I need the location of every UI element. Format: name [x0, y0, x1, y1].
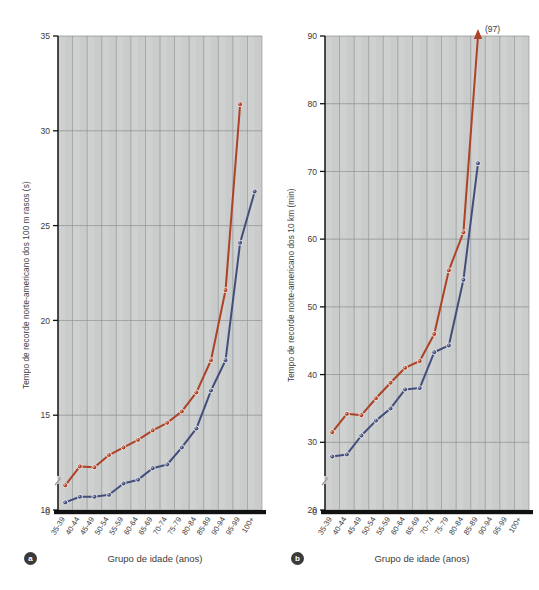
y-tick-label: 30: [40, 126, 50, 136]
x-axis-baseline: [54, 510, 266, 514]
chart-plot-b: 0203040506070809035-3940-4445-4950-5455-…: [301, 14, 533, 544]
x-tick-labels: 35-3940-4445-4950-5455-5960-6465-6970-74…: [49, 515, 257, 537]
y-tick-label: 20: [307, 505, 317, 515]
x-tick-label: 45-49: [345, 515, 363, 536]
y-tick-label: 90: [307, 31, 317, 41]
off-scale-arrow: [474, 29, 482, 39]
y-tick-label: 60: [307, 234, 317, 244]
x-tick-label: 95-99: [224, 515, 242, 536]
x-tick-label: 100+: [507, 515, 524, 535]
y-tick-label: 40: [307, 370, 317, 380]
x-axis-baseline: [321, 510, 533, 514]
x-axis-title-b: Grupo de idade (anos): [327, 553, 517, 564]
y-tick-label: 80: [307, 99, 317, 109]
y-tick-label: 35: [40, 31, 50, 41]
y-tick-label: 50: [307, 302, 317, 312]
y-tick-labels: 0101520253035: [40, 31, 58, 517]
x-tick-label: 80-84: [447, 515, 465, 536]
x-axis-title-a: Grupo de idade (anos): [60, 553, 250, 564]
y-tick-labels: 02030405060708090: [307, 31, 325, 517]
panel-tag-b: b: [291, 552, 304, 565]
x-tick-label: 100+: [240, 515, 257, 535]
x-tick-label: 80-84: [180, 515, 198, 536]
x-tick-label: 95-99: [491, 515, 509, 536]
y-tick-label: 30: [307, 437, 317, 447]
panel-tag-a: a: [24, 552, 37, 565]
y-axis-title-a: Tempo de recorde norte-americano dos 100…: [22, 140, 36, 430]
y-axis-title-b: Tempo de recorde norte-americano dos 10 …: [287, 140, 301, 430]
y-tick-label: 20: [40, 316, 50, 326]
chart-panel-b: Tempo de recorde norte-americano dos 10 …: [269, 0, 539, 590]
y-tick-label: 70: [307, 167, 317, 177]
chart-plot-a: 010152025303535-3940-4445-4950-5455-5960…: [36, 14, 266, 544]
y-tick-label: 10: [40, 505, 50, 515]
chart-panel-a: Tempo de recorde norte-americano dos 100…: [0, 0, 269, 590]
figure-container: Tempo de recorde norte-americano dos 100…: [0, 0, 539, 590]
y-tick-label: 15: [40, 410, 50, 420]
annotation-label: (97): [485, 24, 500, 34]
y-tick-label: 25: [40, 221, 50, 231]
x-tick-labels: 35-3940-4445-4950-5455-5960-6465-6970-74…: [316, 515, 524, 537]
x-tick-label: 45-49: [78, 515, 96, 536]
